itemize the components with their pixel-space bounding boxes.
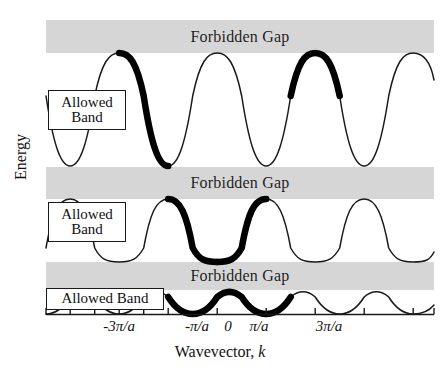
allowed-band-line2: Band xyxy=(71,110,103,125)
allowed-band-box-middle: Allowed Band xyxy=(48,202,126,242)
x-axis-label-text: Wavevector, xyxy=(175,343,254,360)
y-axis-label: Energy xyxy=(12,122,30,192)
allowed-band-line1: Allowed xyxy=(61,95,113,110)
band-3-bold-left xyxy=(119,53,168,166)
allowed-band-box-top: Allowed Band xyxy=(48,90,126,130)
x-axis-label: Wavevector, k xyxy=(0,343,440,361)
x-tick-label-3pi-a: 3π/a xyxy=(316,318,343,335)
allowed-band-box-bottom: Allowed Band xyxy=(46,288,164,310)
allowed-band-line1: Allowed xyxy=(61,207,113,222)
x-tick-label-negpi-a: -π/a xyxy=(185,318,209,335)
band-2-bold-right xyxy=(217,199,266,262)
band-1-bold-center xyxy=(168,292,291,314)
allowed-band-label: Allowed Band xyxy=(61,291,148,306)
band-3-bold-right xyxy=(291,53,340,96)
x-tick-label-zero: 0 xyxy=(224,318,232,335)
x-tick-label-pi-a: π/a xyxy=(249,318,268,335)
band-curves xyxy=(0,0,440,370)
band-structure-figure: Forbidden Gap Forbidden Gap Forbidden Ga… xyxy=(0,0,440,370)
allowed-band-line2: Band xyxy=(71,222,103,237)
x-axis-label-symbol: k xyxy=(258,343,265,360)
x-tick-label-neg3pi-a: -3π/a xyxy=(103,318,135,335)
band-2-bold-left xyxy=(168,199,217,262)
